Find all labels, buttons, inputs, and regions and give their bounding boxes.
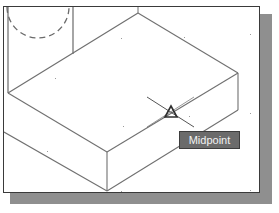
grid-dots	[47, 34, 251, 192]
dashed-arc	[7, 7, 69, 38]
drawing-canvas[interactable]	[4, 7, 260, 193]
bottom-left-edge	[4, 132, 107, 191]
drawing-viewport[interactable]: Midpoint	[3, 6, 260, 193]
bottom-right-edge	[107, 110, 238, 191]
osnap-tooltip: Midpoint	[179, 131, 240, 149]
top-face-back-right-edge	[138, 13, 238, 73]
